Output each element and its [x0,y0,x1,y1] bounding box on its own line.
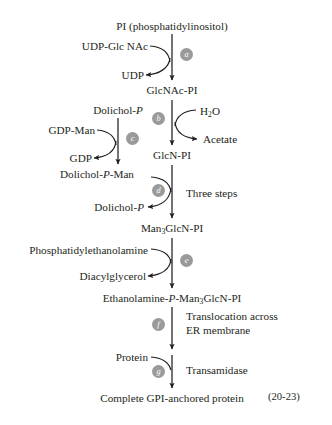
product-diacylglycerol: Diacylglycerol [46,270,146,282]
figure-reference: (20-23) [268,391,300,402]
pathway-arrows-layer [0,0,332,425]
curve-in-gdp-man [97,130,116,145]
step-badge-e: e [180,254,193,267]
step-note-translocation-line2: ER membrane [186,324,250,336]
substrate-water: H2O [200,105,220,117]
step-badge-d: d [152,184,165,197]
gpi-anchor-biosynthesis-pathway-diagram: PI (phosphatidylinositol) GlcNAc-PI GlcN… [0,0,332,425]
curve-out-acetate [175,122,197,139]
curve-out-udp [146,58,170,75]
curve-in-phosphatidylethanolamine [151,249,171,263]
substrate-phosphatidylethanolamine: Phosphatidylethanolamine [6,244,148,256]
metabolite-pi: PI (phosphatidylinositol) [116,20,228,32]
product-gdp: GDP [24,152,92,164]
metabolite-dolichol-p-man-branch-product: Dolichol-P-Man [60,168,134,180]
curve-in-udp-glcnac [150,46,170,62]
step-note-translocation-line1: Translocation across [186,310,278,322]
product-acetate: Acetate [203,133,237,145]
substrate-udp-glcnac: UDP-Glc NAc [76,40,148,52]
product-dolichol-p: Dolichol-P [56,201,144,213]
step-badge-c: c [126,132,139,145]
substrate-protein: Protein [96,351,148,363]
product-udp: UDP [76,69,144,81]
curve-out-diacylglycerol [148,259,171,276]
step-badge-f: f [152,318,165,331]
metabolite-ethanolamine-p-man3-glcn-pi: Ethanolamine-P-Man3GlcN-PI [103,292,242,304]
metabolite-man3-glcn-pi: Man3GlcN-PI [141,222,203,234]
step-note-transamidase: Transamidase [186,364,248,376]
substrate-gdp-man: GDP-Man [20,124,95,136]
step-badge-g: g [152,365,165,378]
metabolite-glcnac-pi: GlcNAc-PI [147,84,198,96]
curve-out-gdp [94,141,116,158]
metabolite-dolichol-p-branch-substrate: Dolichol-P [93,104,143,116]
step-badge-b: b [152,112,165,125]
step-note-three-steps: Three steps [186,187,237,199]
step-badge-a: a [180,48,193,61]
metabolite-glcn-pi: GlcN-PI [153,149,191,161]
curve-in-h2o [175,110,196,126]
metabolite-complete-gpi-anchored-protein: Complete GPI-anchored protein [100,392,244,404]
